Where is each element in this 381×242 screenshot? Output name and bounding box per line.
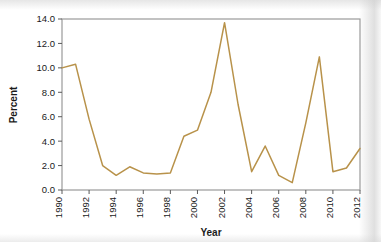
y-axis-label: Percent [8, 86, 19, 123]
plot-area-frame [62, 19, 360, 190]
y-axis-tick-label: 14.0 [37, 13, 56, 24]
x-axis-tick-label: 2008 [297, 197, 308, 218]
x-axis-tick-label: 1996 [134, 197, 145, 218]
y-axis-tick-label: 8.0 [42, 87, 55, 98]
x-axis-tick-label: 2004 [243, 197, 254, 218]
y-axis-tick-labels: 0.02.04.06.08.010.012.014.0 [37, 13, 56, 195]
y-axis-tick-label: 12.0 [37, 38, 56, 49]
x-axis-tick-label: 1998 [161, 197, 172, 218]
x-axis-tick-label: 1992 [80, 197, 91, 218]
x-axis-tick-label: 2000 [188, 197, 199, 218]
y-axis-tick-label: 10.0 [37, 62, 56, 73]
x-axis-tick-label: 2002 [216, 197, 227, 218]
chart-figure: 0.02.04.06.08.010.012.014.0 199019921994… [0, 0, 381, 242]
x-axis-tick-label: 2012 [351, 197, 362, 218]
y-axis-tick-label: 6.0 [42, 111, 55, 122]
y-axis-tick-label: 4.0 [42, 136, 55, 147]
x-axis-label: Year [200, 227, 221, 238]
x-axis-tick-labels: 1990199219941996199820002002200420062008… [53, 197, 362, 218]
x-axis-tick-label: 2006 [270, 197, 281, 218]
x-axis-tick-label: 2010 [324, 197, 335, 218]
y-axis-tick-label: 0.0 [42, 184, 55, 195]
x-axis-ticks [62, 190, 360, 194]
x-axis-tick-label: 1990 [53, 197, 64, 218]
x-axis-tick-label: 1994 [107, 197, 118, 218]
y-axis-tick-label: 2.0 [42, 160, 55, 171]
line-chart: 0.02.04.06.08.010.012.014.0 199019921994… [0, 0, 381, 242]
